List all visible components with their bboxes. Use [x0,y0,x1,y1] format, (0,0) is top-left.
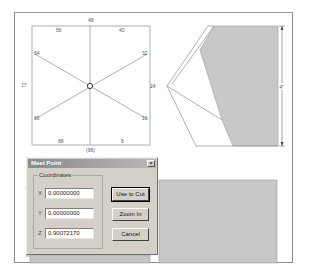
label-top-left: 56 [56,27,62,33]
label-lower-left: 80 [34,115,40,121]
close-button[interactable]: × [147,160,155,167]
label-lower-right: 16 [142,115,148,121]
coordinates-group-label: Coordinates [38,172,72,179]
meet-point-dialog: Meet Point × Coordinates X 0.00000000 Y … [26,157,158,255]
profile-view: 4" [167,26,285,146]
compass-view: 48 56 40 64 32 72 24 80 16 88 8 (96) [21,17,156,153]
dialog-title: Meet Point [31,159,61,168]
center-marker-icon [87,83,92,88]
dimension-label: 4" [280,84,285,90]
label-upper-right: 32 [142,50,148,56]
label-top: 48 [88,17,94,23]
label-upper-left: 64 [34,50,40,56]
label-right: 24 [150,83,156,89]
label-top-right: 40 [119,27,125,33]
x-label: X [38,190,44,196]
dialog-titlebar[interactable]: Meet Point × [28,159,156,168]
close-icon: × [149,160,153,166]
bottom-left-view [30,255,150,263]
label-bottom-right: 8 [121,138,124,144]
x-field[interactable]: 0.00000000 [45,188,94,199]
label-bottom: (96) [86,147,95,153]
label-bottom-left: 88 [58,138,64,144]
cancel-button[interactable]: Cancel [112,228,149,241]
y-field[interactable]: 0.00000000 [45,208,94,219]
z-field[interactable]: 0.90072170 [45,228,94,239]
z-label: Z [38,230,44,236]
zoom-in-button[interactable]: Zoom In [112,208,149,221]
use-to-cut-button[interactable]: Use to Cut [112,188,149,201]
y-label: Y [38,210,44,216]
coordinates-group: Coordinates X 0.00000000 Y 0.00000000 Z … [33,175,103,249]
bottom-right-view [159,180,277,263]
label-left: 72 [21,82,27,88]
